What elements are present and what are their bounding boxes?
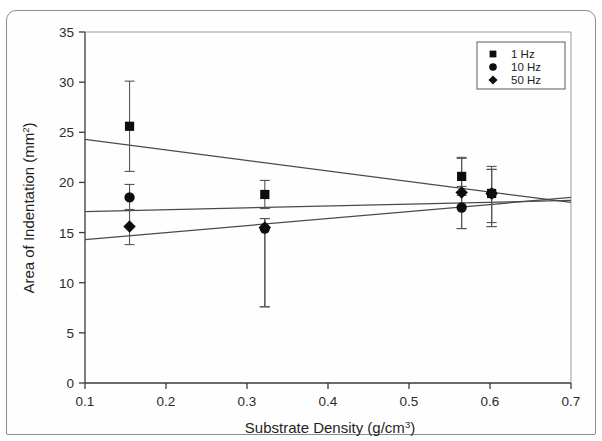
data-point-circle [124, 192, 134, 202]
y-axis-ticks: 05101520253035 [59, 25, 85, 391]
y-tick-label: 20 [59, 175, 74, 190]
data-point-diamond [123, 220, 135, 232]
y-tick-label: 10 [59, 276, 74, 291]
trend-lines [85, 139, 571, 239]
data-point-square [260, 190, 269, 199]
y-tick-label: 15 [59, 226, 74, 241]
y-tick-label: 30 [59, 75, 74, 90]
y-tick-label: 35 [59, 25, 74, 40]
y-tick-label: 0 [66, 376, 74, 391]
x-tick-label: 0.3 [238, 394, 257, 409]
data-point-square [125, 122, 134, 131]
plot-canvas: 0.10.20.30.40.50.60.7 05101520253035 1 H… [0, 0, 602, 441]
x-tick-label: 0.1 [76, 394, 95, 409]
x-tick-label: 0.4 [319, 394, 338, 409]
trend-line-50-hz [85, 197, 571, 239]
legend-marker-circle [489, 63, 497, 71]
error-bars [125, 81, 497, 307]
y-tick-label: 25 [59, 125, 74, 140]
legend-label: 10 Hz [511, 61, 541, 73]
y-tick-label: 5 [66, 326, 74, 341]
data-point-square [457, 172, 466, 181]
trend-line-10-hz [85, 200, 571, 211]
scatter-chart-figure: 0.10.20.30.40.50.60.7 05101520253035 1 H… [0, 0, 602, 441]
trend-line-1-hz [85, 139, 571, 202]
data-point-circle [456, 202, 466, 212]
x-tick-label: 0.2 [157, 394, 176, 409]
x-tick-label: 0.6 [481, 394, 500, 409]
x-tick-label: 0.5 [400, 394, 419, 409]
legend-label: 50 Hz [511, 74, 541, 86]
legend-box: 1 Hz10 Hz50 Hz [477, 42, 565, 89]
data-markers [123, 122, 497, 234]
legend-marker-square [490, 51, 497, 58]
legend-label: 1 Hz [511, 48, 535, 60]
x-tick-label: 0.7 [562, 394, 581, 409]
x-axis-ticks: 0.10.20.30.40.50.60.7 [76, 383, 581, 409]
